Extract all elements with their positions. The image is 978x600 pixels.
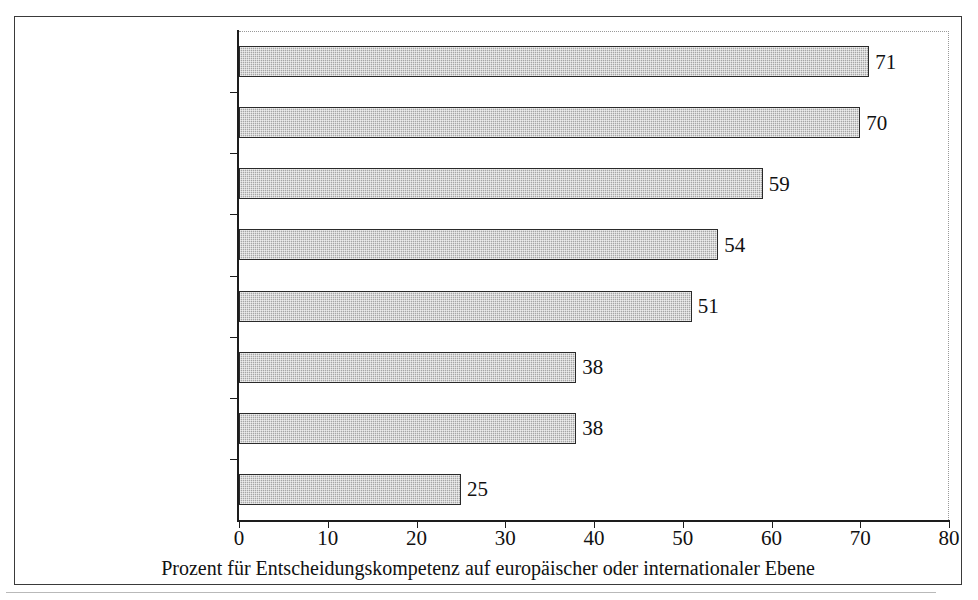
bar-value-label: 71 bbox=[869, 51, 896, 72]
x-axis-tick-label: 60 bbox=[761, 528, 782, 549]
bar-value-label: 38 bbox=[576, 418, 603, 439]
chart-figure-frame: EntwicklungshilfeKampf gegen dasorganisi… bbox=[14, 16, 962, 585]
bar[interactable] bbox=[239, 107, 860, 138]
bar-value-label: 54 bbox=[718, 234, 745, 255]
bar-row: 71 bbox=[239, 46, 929, 77]
x-axis-tick-label: 0 bbox=[234, 528, 245, 549]
x-axis-tick-label: 80 bbox=[939, 528, 960, 549]
bar-value-label: 25 bbox=[461, 479, 488, 500]
bar[interactable] bbox=[239, 291, 692, 322]
bar-value-label: 59 bbox=[763, 173, 790, 194]
x-axis-tick-label: 10 bbox=[317, 528, 338, 549]
x-axis-tick-label: 30 bbox=[495, 528, 516, 549]
x-axis-tick-label: 20 bbox=[406, 528, 427, 549]
bar[interactable] bbox=[239, 474, 461, 505]
bar-row: 54 bbox=[239, 229, 778, 260]
x-axis-tick-label: 50 bbox=[672, 528, 693, 549]
plot-area bbox=[239, 31, 949, 520]
category-axis-labels: EntwicklungshilfeKampf gegen dasorganisi… bbox=[15, 17, 251, 600]
bar-row: 38 bbox=[239, 413, 636, 444]
bar[interactable] bbox=[239, 168, 763, 199]
bar[interactable] bbox=[239, 352, 576, 383]
bar-row: 70 bbox=[239, 107, 920, 138]
x-axis-tick-label: 40 bbox=[584, 528, 605, 549]
bar-row: 25 bbox=[239, 474, 521, 505]
x-axis-tick-label: 70 bbox=[850, 528, 871, 549]
scan-artifact-top bbox=[300, 3, 700, 9]
x-axis-title: Prozent für Entscheidungskompetenz auf e… bbox=[15, 557, 961, 579]
bar-value-label: 70 bbox=[860, 112, 887, 133]
bar-value-label: 38 bbox=[576, 357, 603, 378]
bar-row: 59 bbox=[239, 168, 823, 199]
bar[interactable] bbox=[239, 413, 576, 444]
bar-row: 51 bbox=[239, 291, 752, 322]
bar[interactable] bbox=[239, 46, 869, 77]
bar[interactable] bbox=[239, 229, 718, 260]
bar-value-label: 51 bbox=[692, 296, 719, 317]
scan-artifact-bottom bbox=[6, 592, 936, 593]
bar-row: 38 bbox=[239, 352, 636, 383]
